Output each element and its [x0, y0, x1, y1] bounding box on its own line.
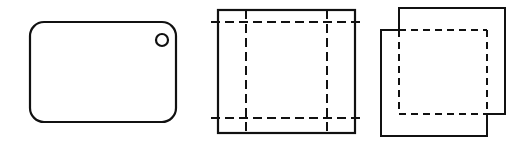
drawing-canvas [0, 0, 527, 146]
rounded-rectangle-plate-figure [30, 22, 176, 122]
upper-right-square-visible-edges [399, 8, 505, 114]
square-outline [218, 10, 355, 133]
through-hole-icon [156, 34, 168, 46]
square-with-hidden-lines-figure [211, 10, 362, 133]
two-offset-squares-figure [381, 8, 505, 136]
rounded-plate-outline [30, 22, 176, 122]
lower-left-square-visible-edges [381, 30, 487, 136]
technical-drawing-sheet [0, 0, 527, 146]
